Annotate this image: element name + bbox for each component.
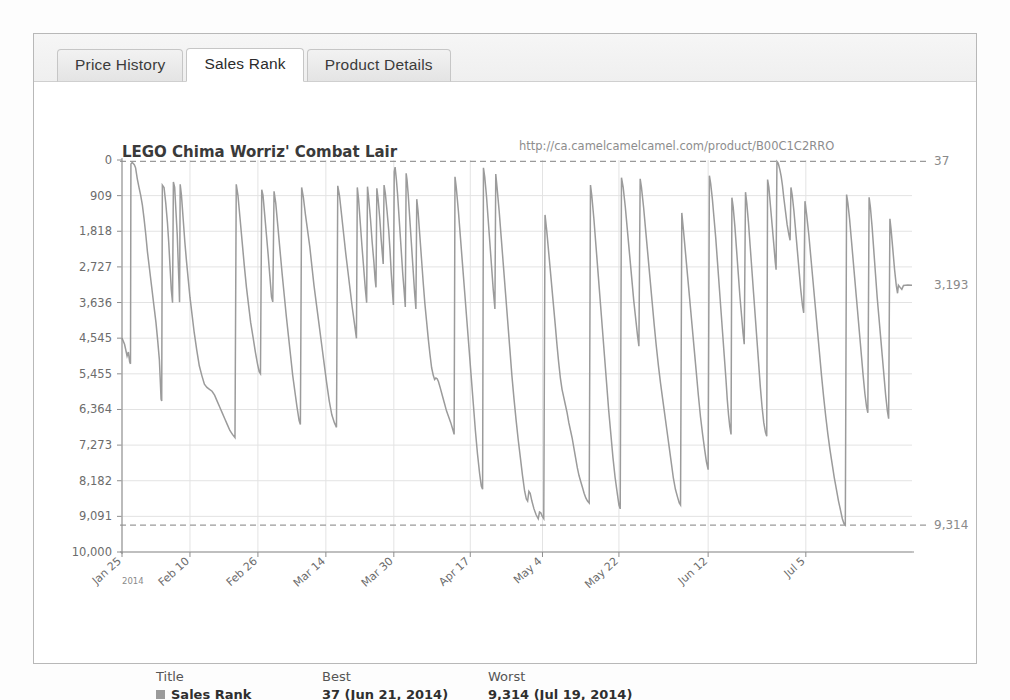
legend-color-swatch: [156, 690, 165, 699]
annotation-label: 3,193: [934, 278, 968, 292]
legend-header-row: Title Best Worst: [156, 668, 632, 686]
legend-header-best: Best: [322, 668, 488, 686]
x-axis-tick-label: Mar 30: [359, 555, 396, 590]
y-axis-tick-label: 5,455: [79, 367, 112, 381]
x-axis-tick-label: May 4: [511, 555, 544, 587]
y-axis-tick-label: 2,727: [79, 260, 112, 274]
y-axis-tick-label: 1,818: [79, 224, 112, 238]
legend-header-title: Title: [156, 668, 322, 686]
y-axis-tick-label: 0: [105, 153, 112, 167]
tab-product-details[interactable]: Product Details: [307, 49, 451, 82]
legend-best-value: 37 (Jun 21, 2014): [322, 686, 488, 700]
tab-sales-rank[interactable]: Sales Rank: [186, 48, 303, 82]
legend-row: Sales Rank 37 (Jun 21, 2014) 9,314 (Jul …: [156, 686, 632, 700]
legend-worst-value: 9,314 (Jul 19, 2014): [488, 686, 632, 700]
legend-series-label: Sales Rank: [171, 687, 251, 700]
y-axis-tick-label: 7,273: [79, 438, 112, 452]
series-line-sales-rank: [122, 161, 912, 525]
y-axis-tick-label: 9,091: [79, 509, 112, 523]
tab-price-history[interactable]: Price History: [57, 49, 183, 82]
x-axis-tick-label: Jul 5: [781, 555, 808, 581]
y-axis-ticks: 09091,8182,7273,6364,5455,4556,3647,2738…: [72, 153, 112, 559]
chart-title: LEGO Chima Worriz' Combat Lair: [122, 143, 398, 161]
x-axis-year-label: 2014: [122, 576, 144, 586]
sales-rank-chart: LEGO Chima Worriz' Combat Lair http://ca…: [34, 82, 976, 663]
annotation-label: 37: [934, 154, 949, 168]
x-axis-tick-label: Apr 17: [436, 555, 472, 589]
x-axis-tick-label: May 22: [582, 555, 621, 592]
legend-table: Title Best Worst Sales Rank 37 (Jun 21, …: [156, 668, 632, 700]
tab-bar: Price History Sales Rank Product Details: [34, 34, 976, 82]
x-axis-tick-label: Feb 26: [224, 555, 260, 589]
legend-header-worst: Worst: [488, 668, 632, 686]
chart-panel: Price History Sales Rank Product Details…: [33, 33, 977, 664]
chart-legend: Title Best Worst Sales Rank 37 (Jun 21, …: [156, 668, 632, 700]
annotation-label: 9,314: [934, 518, 968, 532]
y-axis-tick-label: 6,364: [79, 402, 112, 416]
y-axis-tick-label: 3,636: [79, 296, 112, 310]
tab-list: Price History Sales Rank Product Details: [57, 48, 454, 82]
legend-series-name-cell: Sales Rank: [156, 686, 322, 700]
x-axis-tick-label: Mar 14: [291, 555, 328, 590]
chart-canvas: LEGO Chima Worriz' Combat Lair http://ca…: [34, 82, 978, 665]
y-axis-tick-label: 10,000: [72, 545, 112, 559]
chart-url-label: http://ca.camelcamelcamel.com/product/B0…: [519, 139, 834, 153]
x-axis-tick-label: Jan 25: [89, 555, 124, 588]
series-layer: [122, 161, 912, 525]
x-axis-tick-label: Jun 12: [675, 555, 710, 589]
y-axis-tick-label: 909: [90, 189, 112, 203]
y-axis-tick-label: 8,182: [79, 474, 112, 488]
page-background: Price History Sales Rank Product Details…: [0, 0, 1010, 700]
x-axis-tick-label: Feb 10: [156, 555, 192, 589]
y-axis-tick-label: 4,545: [79, 331, 112, 345]
x-axis-ticks: Jan 25Feb 10Feb 26Mar 14Mar 30Apr 17May …: [89, 555, 808, 592]
